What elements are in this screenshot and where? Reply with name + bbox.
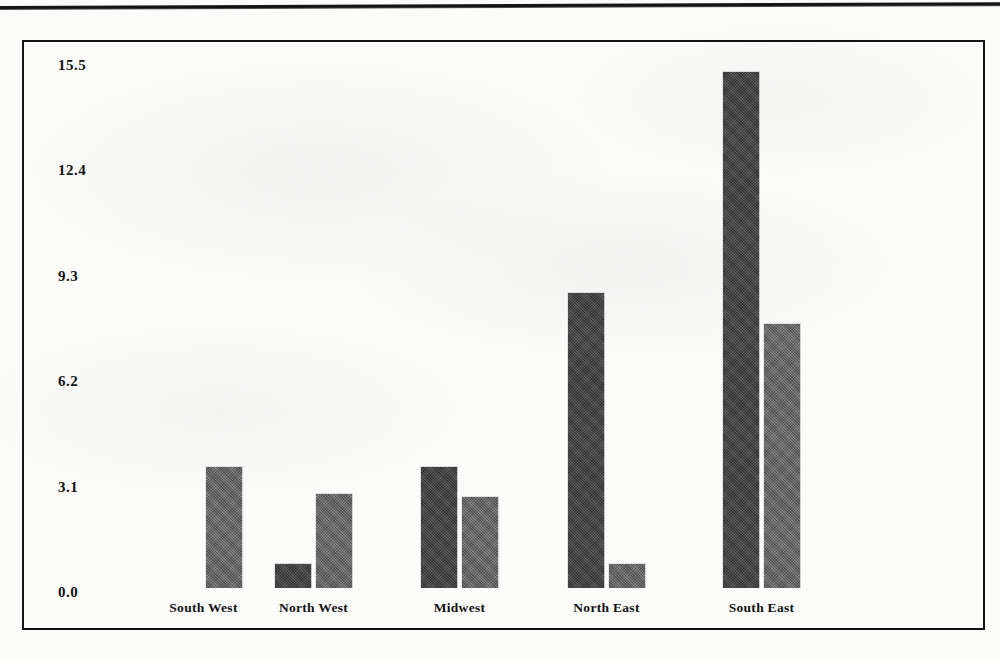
plot-area: 15.512.49.36.23.10.0 South WestNorth Wes… bbox=[24, 42, 983, 628]
x-tick-label: Midwest bbox=[434, 600, 486, 616]
bar-fill bbox=[461, 496, 499, 588]
bar-midwest-series-2 bbox=[461, 496, 499, 588]
bar-fill bbox=[274, 563, 312, 589]
bar-fill bbox=[567, 292, 605, 588]
x-tick-label: South East bbox=[729, 600, 795, 616]
bar-midwest-series-1 bbox=[420, 466, 458, 588]
bar-fill bbox=[205, 466, 243, 588]
x-tick-label: North East bbox=[573, 600, 639, 616]
bar-fill bbox=[315, 493, 353, 588]
x-tick-label: North West bbox=[279, 600, 348, 616]
bar-north-west-series-1 bbox=[274, 563, 312, 589]
page-canvas: 15.512.49.36.23.10.0 South WestNorth Wes… bbox=[0, 0, 1000, 661]
bar-fill bbox=[420, 466, 458, 588]
bar-south-east-series-2 bbox=[763, 323, 801, 588]
bar-north-east-series-2 bbox=[608, 563, 646, 589]
bar-fill bbox=[763, 323, 801, 588]
bar-south-east-series-1 bbox=[722, 71, 760, 588]
bars-layer bbox=[24, 42, 983, 628]
bar-fill bbox=[608, 563, 646, 589]
bar-north-west-series-2 bbox=[315, 493, 353, 588]
bar-fill bbox=[722, 71, 760, 588]
x-tick-label: South West bbox=[169, 600, 237, 616]
header-rule bbox=[0, 2, 1000, 10]
bar-north-east-series-1 bbox=[567, 292, 605, 588]
chart-frame: 15.512.49.36.23.10.0 South WestNorth Wes… bbox=[22, 40, 985, 630]
bar-south-west-series-2 bbox=[205, 466, 243, 588]
